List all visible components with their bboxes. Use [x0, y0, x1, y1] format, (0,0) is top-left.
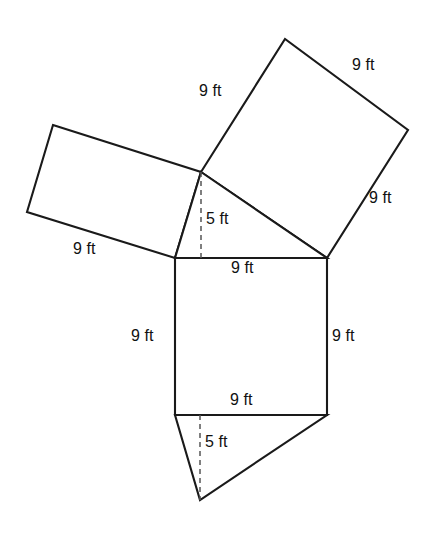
bottom-triangle-face [175, 415, 327, 500]
label-right-square-lower-right: 9 ft [369, 190, 392, 206]
label-right-square-top: 9 ft [199, 83, 222, 99]
left-square-face [27, 125, 201, 258]
label-rect-right: 9 ft [332, 328, 355, 344]
label-rect-bottom: 9 ft [230, 392, 253, 408]
label-top-triangle-height: 5 ft [206, 211, 229, 227]
label-left-square-bottom: 9 ft [73, 241, 96, 257]
net-diagram-svg [0, 0, 432, 537]
label-rect-top: 9 ft [231, 260, 254, 276]
label-bottom-triangle-height: 5 ft [205, 434, 228, 450]
label-rect-left: 9 ft [131, 328, 154, 344]
label-right-square-upper-right: 9 ft [352, 57, 375, 73]
geometry-figure: 9 ft 9 ft 9 ft 9 ft 5 ft 9 ft 9 ft 9 ft … [0, 0, 432, 537]
